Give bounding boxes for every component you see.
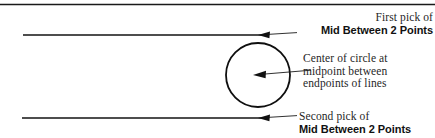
callout-second-pick-line2: Mid Between 2 Points <box>299 123 435 136</box>
callout-circle-center-line2: midpoint between <box>303 65 435 78</box>
arrow-first-pick <box>258 32 297 39</box>
diagram-figure: First pick of Mid Between 2 Points Cente… <box>0 0 435 138</box>
callout-circle-center-line3: endpoints of lines <box>303 77 435 90</box>
callout-second-pick: Second pick of Mid Between 2 Points <box>299 110 435 135</box>
callout-first-pick-line2: Mid Between 2 Points <box>299 24 433 37</box>
callout-circle-center: Center of circle at midpoint between end… <box>303 52 435 90</box>
arrow-second-pick <box>258 115 297 122</box>
callout-second-pick-line1: Second pick of <box>299 110 435 123</box>
callout-first-pick-line1: First pick of <box>299 11 433 24</box>
callout-circle-center-line1: Center of circle at <box>303 52 435 65</box>
callout-first-pick: First pick of Mid Between 2 Points <box>299 11 433 36</box>
